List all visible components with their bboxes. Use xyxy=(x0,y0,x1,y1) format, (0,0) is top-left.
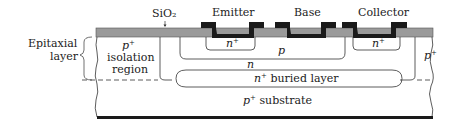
base-p-region xyxy=(180,37,345,59)
isolation-label-line2: region xyxy=(112,63,148,76)
epitaxial-brace xyxy=(80,37,92,80)
emitter-label: Emitter xyxy=(212,6,255,19)
epitaxial-label-line2: layer xyxy=(50,50,79,63)
right-isolation-boundary xyxy=(400,37,415,80)
base-region-label: p xyxy=(278,44,285,57)
left-boundary xyxy=(95,37,98,117)
sio2-arrowhead xyxy=(164,25,167,28)
sio2-label: SiO₂ xyxy=(152,7,176,20)
emitter-region-label: n+ xyxy=(226,37,239,50)
buried-layer-label: n+ buried layer xyxy=(254,72,339,85)
base-label: Base xyxy=(294,6,321,19)
epitaxial-label-line1: Epitaxial xyxy=(28,37,78,50)
right-isolation-label: p+ xyxy=(424,49,437,62)
left-isolation-boundary xyxy=(160,37,172,80)
collector-contact-label: n+ xyxy=(372,37,385,50)
collector-label: Collector xyxy=(358,6,410,19)
substrate-bottom-edge xyxy=(97,116,433,119)
collector-region-label: n xyxy=(247,58,254,71)
substrate-label: p+ substrate xyxy=(243,94,312,107)
bjt-cross-section-diagram: SiO₂ Emitter Base Collector Epitaxial la… xyxy=(0,0,473,125)
